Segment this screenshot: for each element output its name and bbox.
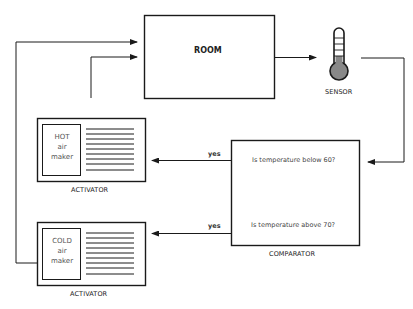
hot-maker-label: HOT air maker (43, 132, 81, 162)
comparator-question-high: Is temperature above 70? (251, 221, 335, 229)
comparator-question-low: Is temperature below 60? (252, 156, 335, 164)
yes-label-hot: yes (208, 150, 221, 158)
hot-maker-line1: HOT (43, 132, 81, 142)
cold-maker-line2: air (43, 246, 81, 256)
edge-sensor-to-comparator (361, 58, 404, 162)
yes-label-cold: yes (208, 222, 221, 230)
edge-hot-to-room (91, 57, 137, 98)
thermometer-icon (330, 28, 348, 80)
cold-maker-line3: maker (43, 256, 81, 266)
hot-activator-label: ACTIVATOR (71, 186, 108, 194)
cold-maker-label: COLD air maker (43, 236, 81, 266)
comparator-label: COMPARATOR (269, 250, 315, 258)
hot-maker-line3: maker (43, 152, 81, 162)
cold-activator-label: ACTIVATOR (70, 290, 107, 298)
sensor-label: SENSOR (325, 88, 352, 96)
room-box (145, 16, 275, 99)
cold-maker-line1: COLD (43, 236, 81, 246)
room-label: ROOM (194, 46, 222, 55)
hot-maker-line2: air (43, 142, 81, 152)
